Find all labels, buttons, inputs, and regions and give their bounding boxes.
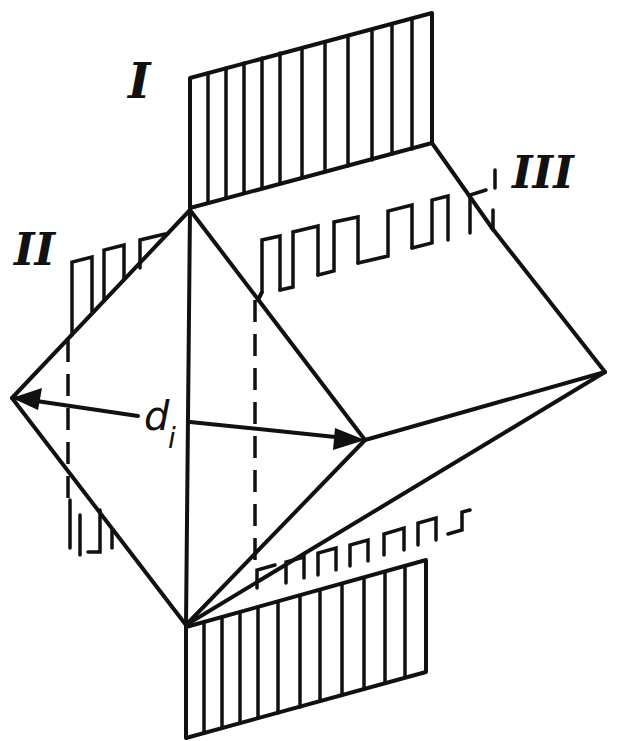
label-plane-I: I — [126, 53, 152, 109]
label-plane-III: III — [510, 147, 575, 198]
plane-III-comb-top — [262, 170, 495, 290]
crystal-diagram: I II III d i — [0, 0, 627, 741]
plane-I-hatch-top — [190, 13, 432, 208]
label-plane-II: II — [12, 224, 57, 275]
label-diagonal-subscript: i — [168, 422, 176, 455]
diagram-canvas: I II III d i — [0, 0, 627, 741]
label-diagonal-d: d — [144, 393, 170, 439]
